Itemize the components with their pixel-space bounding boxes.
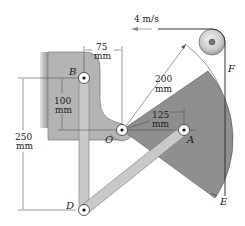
dim-125-unit: mm <box>152 119 170 129</box>
dim-200-unit: mm <box>155 84 173 94</box>
link-BD <box>79 78 89 210</box>
mechanism-diagram: 4 m/s 200 mm 125 mm 75 mm 100 mm 250 mm … <box>0 0 245 226</box>
velocity-label: 4 m/s <box>134 14 159 24</box>
pin-B <box>79 73 90 84</box>
label-D: D <box>65 200 74 211</box>
dim-75-unit: mm <box>94 51 112 61</box>
label-B: B <box>68 66 76 77</box>
pin-D <box>79 205 90 216</box>
label-E: E <box>219 196 228 207</box>
velocity-arrow <box>131 27 152 31</box>
leader-200-arrowhead <box>181 44 186 49</box>
wall-support <box>40 52 48 128</box>
label-F: F <box>227 63 236 74</box>
dim-100-unit: mm <box>55 105 73 115</box>
dim-200-value: 200 <box>155 74 172 84</box>
label-O: O <box>105 134 113 145</box>
label-A: A <box>186 134 194 145</box>
dim-250-unit: mm <box>16 141 34 151</box>
pin-O <box>117 125 128 136</box>
